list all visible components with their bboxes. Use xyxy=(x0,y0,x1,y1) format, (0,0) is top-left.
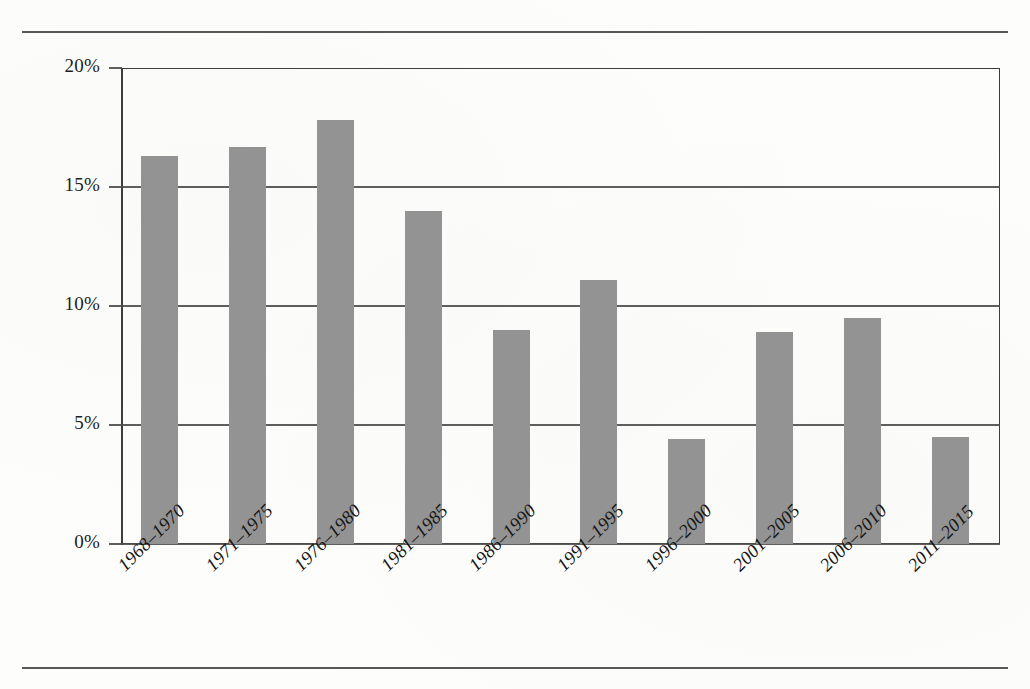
y-tick-mark xyxy=(109,186,122,187)
y-tick-label: 5% xyxy=(36,412,100,434)
bar-chart: 0%5%10%15%20% 1968–19701971–19751976–198… xyxy=(0,0,1030,689)
page-bottom-rule xyxy=(22,667,1008,669)
y-tick-label: 20% xyxy=(36,55,100,77)
y-tick-label: 10% xyxy=(36,293,100,315)
y-tick-mark xyxy=(109,67,122,68)
bar xyxy=(141,156,178,544)
y-tick-mark xyxy=(109,424,122,425)
y-tick-label: 0% xyxy=(36,531,100,553)
y-tick-mark xyxy=(109,543,122,544)
y-tick-mark xyxy=(109,305,122,306)
bar xyxy=(317,120,354,544)
y-tick-label: 15% xyxy=(36,174,100,196)
scanned-page: 0%5%10%15%20% 1968–19701971–19751976–198… xyxy=(0,0,1030,689)
bar xyxy=(229,147,266,544)
bar xyxy=(405,211,442,544)
